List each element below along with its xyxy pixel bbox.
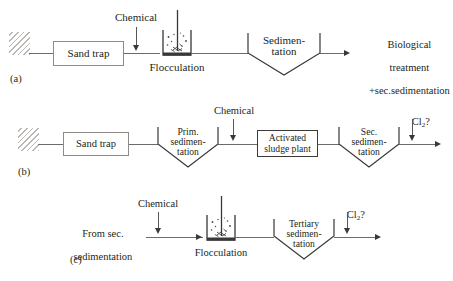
arrow-down-icon-chemical-c: [155, 228, 161, 234]
chlorine-symbol: Cl: [412, 116, 422, 127]
row-tag-b: (b): [18, 166, 30, 177]
flowline-secsed-to-outlet: [399, 144, 439, 145]
flowline-sandtrap-to-primsed: [129, 144, 158, 145]
flowline-flocculation-to-sedimentation: [191, 53, 248, 54]
flowline-primsed-to-activatedsludge: [218, 144, 258, 145]
arrow-right-icon-outlet-a: [344, 50, 350, 56]
dose-line-chemical-c: [158, 212, 159, 229]
scheme-row-c: From sec. sedimentation Chemical: [0, 188, 453, 281]
arrow-right-icon-outlet-c: [375, 234, 381, 240]
unit-primary-sedimentation-b: Prim. sedimen- tation: [156, 127, 220, 169]
inlet-wall-hatch-icon: [18, 128, 39, 151]
arrow-down-icon-chemical-b: [230, 135, 236, 141]
label-chemical-dose-c: Chemical: [118, 198, 198, 209]
scheme-row-b: Sand trap Prim. sedimen- tation Chemical…: [0, 96, 453, 188]
inlet-wall-hatch-icon: [9, 32, 30, 55]
label-flocculation-a: Flocculation: [142, 62, 212, 74]
label-chemical-dose-a: Chemical: [96, 12, 176, 24]
source-line-1: From sec.: [82, 228, 123, 239]
unit-label: Sand trap: [76, 138, 116, 149]
flowline-tertiary-to-outlet: [334, 237, 379, 238]
flowline-source-to-flocculation: [146, 237, 203, 238]
unit-flocculation-c: [202, 209, 240, 245]
arrow-right-icon-outlet-b: [435, 141, 441, 147]
label-chemical-dose-b: Chemical: [194, 105, 274, 116]
flowline-sandtrap-to-flocculation: [124, 53, 160, 54]
unit-flocculation-a: [158, 24, 196, 60]
arrow-down-icon-chemical-a: [133, 45, 139, 51]
flowline-inlet-to-sandtrap: [29, 53, 53, 54]
unit-sand-trap-b: Sand trap: [63, 132, 129, 156]
unit-label-line2: sludge plant: [264, 143, 311, 154]
unit-activated-sludge-plant-b: Activated sludge plant: [257, 130, 318, 157]
chlorine-symbol: Cl: [347, 209, 357, 220]
label-flocculation-c: Flocculation: [186, 247, 256, 258]
dose-line-chemical-b: [233, 119, 234, 136]
process-flow-diagram: Sand trap Chemical: [0, 0, 453, 281]
dose-line-chlorine-c: [347, 212, 348, 229]
outlet-line-2: treatment: [390, 62, 430, 73]
label-source-c: From sec. sedimentation: [44, 217, 146, 274]
unit-sand-trap-a: Sand trap: [53, 41, 124, 66]
row-tag-c: (c): [70, 254, 82, 265]
flowline-flocculation-to-tertiary: [235, 237, 274, 238]
outlet-line-3: +sec.sedimentation: [369, 85, 450, 96]
dose-line-chemical-a: [136, 27, 137, 46]
scheme-row-a: Sand trap Chemical: [0, 0, 453, 96]
chlorine-suffix: ?: [360, 209, 365, 220]
arrow-down-icon-chlorine-b: [409, 135, 415, 141]
outlet-line-1: Biological: [388, 39, 432, 50]
row-tag-a: (a): [10, 73, 22, 84]
unit-sedimentation-a: Sedimen- tation: [246, 33, 322, 77]
dose-line-chlorine-b: [412, 119, 413, 136]
unit-label: Sand trap: [68, 48, 110, 60]
flowline-inlet-to-sandtrap: [38, 144, 63, 145]
chlorine-suffix: ?: [425, 116, 430, 127]
source-line-2: sedimentation: [73, 251, 132, 262]
arrow-down-icon-chlorine-c: [344, 228, 350, 234]
